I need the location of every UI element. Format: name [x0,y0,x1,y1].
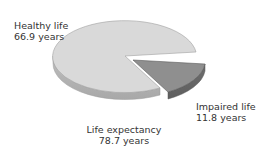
label-life-expectancy-name: Life expectancy [84,124,164,135]
pie-chart: Healthy life 66.9 years Impaired life 11… [0,0,260,151]
label-life-expectancy: Life expectancy 78.7 years [84,124,164,146]
label-healthy-life: Healthy life 66.9 years [14,20,68,42]
label-healthy-life-name: Healthy life [14,20,68,31]
label-life-expectancy-value: 78.7 years [84,135,164,146]
label-impaired-life-name: Impaired life [196,101,256,112]
label-impaired-life: Impaired life 11.8 years [196,101,256,123]
label-impaired-life-value: 11.8 years [196,112,256,123]
label-healthy-life-value: 66.9 years [14,31,68,42]
